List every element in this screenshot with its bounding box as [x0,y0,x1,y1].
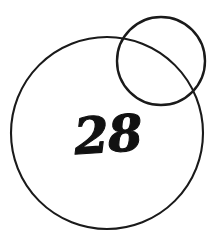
circles-diagram: 28 [0,0,222,246]
figure-canvas: 28 [0,0,222,246]
value-label: 28 [71,103,144,167]
